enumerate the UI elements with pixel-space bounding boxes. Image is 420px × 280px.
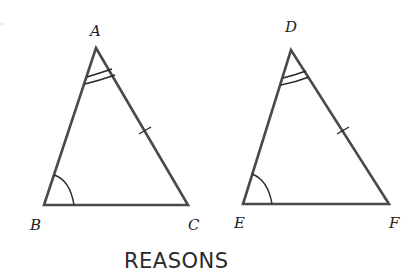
reasons-heading: REASONS [124,249,229,273]
vertex-label-f: F [388,214,400,232]
triangle-def-outline [243,50,389,204]
vertex-label-d: D [284,18,297,36]
vertex-label-b: B [29,216,41,234]
triangle-abc: A B C [29,22,200,234]
angle-d-arc-outer [281,77,309,85]
vertex-label-a: A [88,22,101,40]
vertex-label-e: E [233,214,245,232]
scan-speck [1,23,3,25]
triangle-abc-outline [44,48,188,205]
angle-d-arc-inner [283,71,306,78]
angle-b-arc [54,175,74,205]
triangle-def: D E F [233,18,400,232]
angle-e-arc [252,174,272,204]
vertex-label-c: C [188,216,200,234]
diagram-canvas: A B C D E F REASONS [0,0,420,280]
angle-a-arc-inner [87,69,112,77]
